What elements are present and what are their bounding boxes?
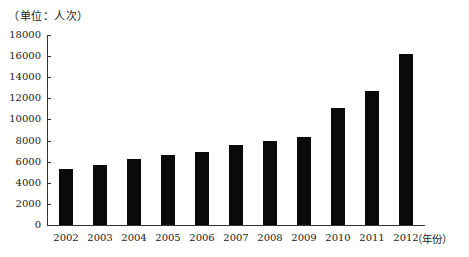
y-tick-label: 14000 bbox=[9, 72, 41, 82]
bar-2008 bbox=[263, 141, 277, 225]
bar-2012 bbox=[399, 54, 413, 225]
y-tick bbox=[47, 225, 51, 226]
y-tick-label: 6000 bbox=[16, 157, 41, 167]
y-tick bbox=[47, 204, 51, 205]
x-tick-label: 2010 bbox=[321, 232, 355, 243]
y-tick bbox=[47, 56, 51, 57]
y-axis-line bbox=[47, 35, 48, 226]
y-tick bbox=[47, 35, 51, 36]
unit-label: （单位：人次） bbox=[8, 7, 89, 23]
x-tick-label: 2007 bbox=[219, 232, 253, 243]
y-tick bbox=[47, 141, 51, 142]
bar-2004 bbox=[127, 159, 141, 225]
y-tick-label: 0 bbox=[35, 220, 41, 230]
y-tick-label: 16000 bbox=[9, 51, 41, 61]
y-tick-label: 8000 bbox=[16, 136, 41, 146]
y-tick-label: 2000 bbox=[16, 199, 41, 209]
y-tick bbox=[47, 119, 51, 120]
x-axis-line bbox=[47, 225, 425, 226]
bar-2003 bbox=[93, 165, 107, 225]
x-tick-label: 2004 bbox=[117, 232, 151, 243]
x-tick-label: 2005 bbox=[151, 232, 185, 243]
y-tick bbox=[47, 183, 51, 184]
bar-2005 bbox=[161, 155, 175, 225]
bar-2006 bbox=[195, 152, 209, 225]
y-tick-label: 10000 bbox=[9, 114, 41, 124]
x-axis-unit-label: （年份） bbox=[412, 231, 452, 246]
x-tick-label: 2006 bbox=[185, 232, 219, 243]
bar-2007 bbox=[229, 145, 243, 225]
x-tick-label: 2011 bbox=[355, 232, 389, 243]
x-tick-label: 2002 bbox=[49, 232, 83, 243]
bar-2009 bbox=[297, 137, 311, 225]
y-tick bbox=[47, 98, 51, 99]
bar-2002 bbox=[59, 169, 73, 225]
y-tick-label: 12000 bbox=[9, 93, 41, 103]
x-tick-label: 2009 bbox=[287, 232, 321, 243]
y-tick-label: 4000 bbox=[16, 178, 41, 188]
bar-2010 bbox=[331, 108, 345, 225]
y-tick bbox=[47, 77, 51, 78]
y-tick bbox=[47, 162, 51, 163]
y-tick-label: 18000 bbox=[9, 30, 41, 40]
bar-2011 bbox=[365, 91, 379, 225]
x-tick-label: 2003 bbox=[83, 232, 117, 243]
x-tick-label: 2008 bbox=[253, 232, 287, 243]
